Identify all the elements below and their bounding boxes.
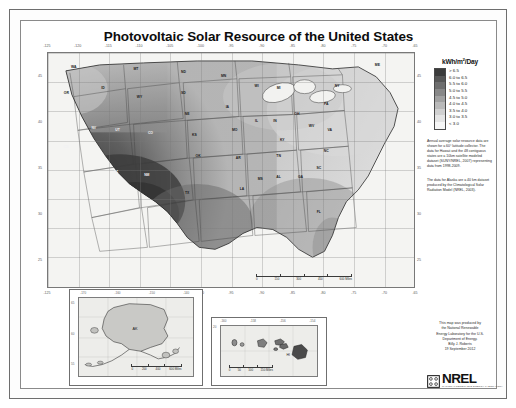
- latitude-tick: 40: [417, 120, 421, 124]
- state-label-ky: KY: [280, 138, 285, 142]
- legend-label-5: 4.0 to 4.5: [449, 101, 467, 108]
- state-label-ne: NE: [185, 112, 190, 116]
- hawaii-longitude-tick: -160: [220, 319, 226, 323]
- legend-unit-main: kWh/m: [442, 58, 463, 65]
- state-label-ks: KS: [192, 133, 197, 137]
- legend-swatch-0: [435, 69, 445, 76]
- nrel-tagline: NATIONAL RENEWABLE ENERGY LABORATORY: [442, 386, 503, 389]
- svg-text:HI: HI: [286, 353, 289, 357]
- longitude-tick: -100: [197, 44, 204, 48]
- legend-label-7: 3.0 to 3.5: [449, 114, 467, 121]
- longitude-tick: -120: [74, 44, 81, 48]
- scalebar-line: [131, 364, 181, 367]
- poster-inner-frame: Photovoltaic Solar Resource of the Unite…: [20, 20, 497, 389]
- state-label-nc: NC: [324, 149, 329, 153]
- longitude-tick: -110: [136, 44, 143, 48]
- latitude-tick: 35: [38, 166, 42, 170]
- latitude-tick: 30: [417, 212, 421, 216]
- state-label-ga: GA: [298, 175, 303, 179]
- longitude-tick: -90: [259, 44, 264, 48]
- state-label-or: OR: [64, 91, 69, 95]
- longitude-tick: -70: [382, 44, 387, 48]
- scalebar-labels: 0150300450600 Miles: [256, 277, 352, 281]
- hawaii-longitude-tick: -158: [250, 319, 256, 323]
- scalebar-tick-label: 600 Miles: [340, 277, 352, 281]
- hawaii-scalebar: 050100150 Miles: [229, 365, 273, 372]
- longitude-tick: -80: [320, 44, 325, 48]
- island-niihau: [240, 343, 244, 347]
- credit-block: This map was produced by the National Re…: [423, 321, 497, 353]
- state-label-pa: PA: [324, 102, 328, 106]
- alaska-longitude-tick: -160: [115, 291, 121, 295]
- latitude-tick: 25: [417, 258, 421, 262]
- scalebar-tick-label: 400: [156, 367, 161, 371]
- legend-swatch-7: [435, 115, 445, 122]
- hawaii-longitude-tick: -156: [280, 319, 286, 323]
- scalebar-labels: 0200400600 Miles: [131, 367, 181, 371]
- legend-note-primary: Annual average solar resource data are s…: [427, 139, 493, 169]
- main-map-scalebar: 0150300450600 Miles: [256, 274, 352, 281]
- state-label-va: VA: [328, 128, 332, 132]
- state-label-id: ID: [101, 86, 104, 90]
- longitude-tick: -115: [105, 44, 112, 48]
- longitude-tick: -80: [320, 291, 325, 295]
- nrel-emblem-icon: [427, 374, 440, 387]
- state-label-wa: WA: [71, 65, 76, 69]
- scalebar-tick-label: 450: [318, 277, 323, 281]
- scalebar-tick-label: 0: [256, 277, 258, 281]
- scalebar-tick-label: 150: [274, 277, 279, 281]
- state-label-mo: MO: [232, 128, 237, 132]
- svg-text:AK: AK: [132, 327, 138, 331]
- state-label-fl: FL: [317, 210, 321, 214]
- alaska-scalebar: 0200400600 Miles: [131, 364, 181, 371]
- state-label-az: AZ: [113, 170, 118, 174]
- legend-swatch-1: [435, 76, 445, 83]
- alaska-latitude-tick: 60: [71, 332, 74, 336]
- legend-swatch-3: [435, 89, 445, 96]
- scalebar-tick-label: 300: [296, 277, 301, 281]
- longitude-tick: -65: [412, 291, 417, 295]
- state-label-ia: IA: [226, 105, 229, 109]
- state-label-al: AL: [276, 175, 281, 179]
- latitude-tick: 25: [38, 258, 42, 262]
- scalebar-tick-label: 150 Miles: [260, 368, 272, 372]
- state-label-tx: TX: [185, 191, 189, 195]
- state-label-wi: WI: [255, 84, 259, 88]
- longitude-tick: -95: [228, 291, 233, 295]
- scalebar-tick-label: 0: [131, 367, 133, 371]
- longitude-axis-top: -125-120-115-110-105-100-95-90-85-80-75-…: [47, 41, 415, 52]
- contiguous-us-solar-map: WAORCANVIDMTWYUTCOAZNMNDSDNEKSOKTXMNIAMO…: [47, 52, 415, 288]
- scalebar-tick-label: 0: [229, 368, 231, 372]
- longitude-tick: -125: [43, 291, 50, 295]
- scalebar-line: [256, 274, 352, 277]
- state-label-me: ME: [375, 63, 380, 67]
- latitude-tick: 30: [38, 212, 42, 216]
- state-label-mt: MT: [133, 67, 138, 71]
- longitude-tick: -95: [228, 44, 233, 48]
- longitude-tick: -75: [351, 44, 356, 48]
- state-label-il: IL: [255, 119, 258, 123]
- state-label-tn: TN: [276, 154, 281, 158]
- alaska-latitude-tick: 65: [71, 301, 74, 305]
- scalebar-tick-label: 50: [238, 368, 241, 372]
- nrel-wordmark: NREL: [442, 372, 503, 386]
- scalebar-labels: 050100150 Miles: [229, 368, 273, 372]
- hawaii-longitude-tick: -154: [309, 319, 315, 323]
- island-lanai: [274, 348, 278, 351]
- legend-swatch-6: [435, 109, 445, 116]
- state-label-sc: SC: [316, 166, 321, 170]
- legend-label-0: > 6.5: [449, 68, 467, 75]
- legend-label-6: 3.5 to 4.0: [449, 108, 467, 115]
- latitude-tick: 45: [417, 74, 421, 78]
- longitude-tick: -65: [412, 44, 417, 48]
- longitude-tick: -85: [290, 44, 295, 48]
- alaska-inset-map: AK 0200400600 Miles -170-160-150-140 656…: [69, 289, 203, 386]
- alaska-longitude-tick: -170: [80, 291, 86, 295]
- state-label-mi: MI: [277, 86, 281, 90]
- legend: kWh/m2/Day > 6.56.0 to 6.55.5 to 6.05.0 …: [423, 57, 497, 193]
- scalebar-tick-label: 200: [142, 367, 147, 371]
- state-label-wy: WY: [137, 95, 142, 99]
- state-label-nv: NV: [91, 126, 96, 130]
- state-label-co: CO: [148, 131, 153, 135]
- state-label-oh: OH: [294, 112, 299, 116]
